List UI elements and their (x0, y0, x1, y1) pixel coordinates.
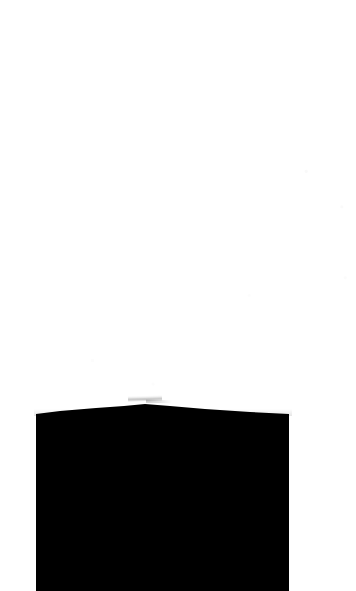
scan-wisp-artifact-secondary (146, 400, 172, 404)
top-edge-soft-halo (34, 400, 292, 416)
black-region (0, 0, 356, 591)
black-region-shape (0, 0, 356, 591)
white-paper-background (0, 0, 356, 591)
black-region-path (36, 404, 289, 591)
scan-wisp-artifact (128, 396, 162, 402)
scanned-page: Scanned page: blank white field with a l… (0, 0, 356, 591)
